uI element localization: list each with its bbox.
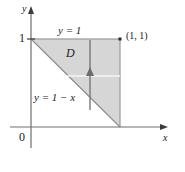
figure-canvas <box>0 0 185 172</box>
region-label-d: D <box>66 47 75 59</box>
y-tick-label-one: 1 <box>19 32 25 44</box>
x-axis-arrowhead <box>160 124 168 130</box>
top-boundary-label: y = 1 <box>58 25 81 36</box>
diagonal-boundary-label: y = 1 − x <box>34 92 75 103</box>
y-axis-arrowhead <box>28 6 34 14</box>
y-axis-label: y <box>22 4 26 14</box>
math-figure: y x 1 0 y = 1 y = 1 − x D (1, 1) <box>0 0 185 172</box>
corner-point-label: (1, 1) <box>126 31 148 41</box>
x-axis-label: x <box>163 133 167 143</box>
origin-label: 0 <box>19 131 25 143</box>
corner-point-marker <box>119 38 122 41</box>
